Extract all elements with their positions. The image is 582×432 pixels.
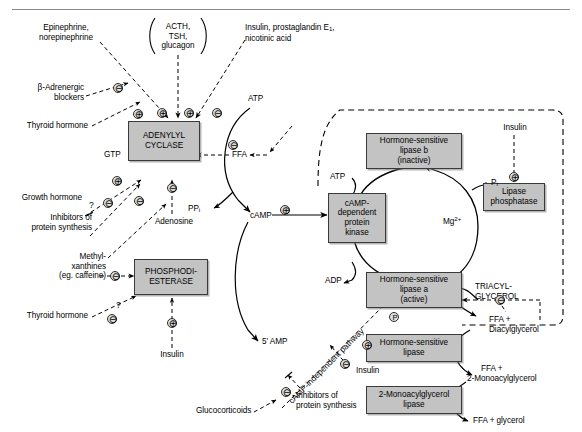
sign-plus-insulin-phosphatase xyxy=(509,172,519,182)
sign-minus-methylxanthines xyxy=(110,271,120,281)
sign-minus-inhibitors2 xyxy=(281,387,291,397)
question-mark-thyroid-bottom: ? xyxy=(116,300,121,310)
sign-minus-adenosine xyxy=(167,183,177,193)
hsl-a-line1: Hormone-sensitive xyxy=(380,275,448,285)
phosphodiesterase-line2: ESTERASE xyxy=(145,277,197,287)
pka-line4: kinase xyxy=(338,228,377,238)
arrow-ffa-source-b xyxy=(270,126,292,152)
label-inhibitors-protein-synthesis-2: Inhibitors of protein synthesis xyxy=(296,391,357,410)
cycle-right-arc xyxy=(428,170,478,288)
pka-line3: protein xyxy=(338,218,377,228)
spacer-path xyxy=(142,176,150,190)
label-ffa-diacylglycerol: FFA + Diacylglycerol xyxy=(489,315,539,334)
hsl-a-line3: (active) xyxy=(380,295,448,305)
sign-plus-gtp xyxy=(112,176,122,186)
adenylyl-cyclase-line2: CYCLASE xyxy=(143,141,185,151)
sign-plus-insulin-pde xyxy=(167,318,177,328)
sign-minus-ffa-lipase-a xyxy=(495,295,505,305)
ppi-main: PP xyxy=(188,204,199,213)
curve-adp-out xyxy=(352,262,356,280)
arrow-adp xyxy=(344,280,352,283)
hsl-line2: lipase xyxy=(380,348,448,358)
mgl-line1: 2-Monoacylglycerol xyxy=(379,390,450,400)
arrow-inhibitors-protein-synthesis xyxy=(90,184,140,236)
label-insulin-camp-independent: Insulin xyxy=(356,366,379,376)
curve-camp-to-amp xyxy=(235,222,248,330)
nicotinic-acid-line: nicotinic acid xyxy=(245,34,335,44)
ppi-subscript: i xyxy=(199,206,200,213)
mg-main: Mg xyxy=(443,217,454,226)
label-glucocorticoids: Glucocorticoids xyxy=(196,406,251,416)
mgl-line2: lipase xyxy=(379,400,450,410)
label-epinephrine: Epinephrine, norepinephrine xyxy=(22,23,110,42)
sign-plus-acth xyxy=(184,108,194,118)
label-adenosine: Adenosine xyxy=(147,217,201,227)
hsl-b-line1: Hormone-sensitive xyxy=(380,136,448,146)
label-ppi: PPi xyxy=(188,204,200,215)
arrow-methylxanthines-adenosine xyxy=(108,204,166,258)
arrow-to-5amp xyxy=(248,330,258,341)
label-thyroid-hormone-top: Thyroid hormone xyxy=(0,121,88,131)
label-ffa-glycerol: FFA + glycerol xyxy=(473,416,524,426)
hsl-a-line2: lipase a xyxy=(380,285,448,295)
enzyme-box-camp-dependent-protein-kinase[interactable]: cAMP- dependent protein kinase xyxy=(328,193,386,243)
sign-plus-epinephrine xyxy=(157,108,167,118)
label-ffa-2-monoacylglycerol: FFA + 2-Monoacylglycerol xyxy=(467,364,537,383)
label-beta-adrenergic-blockers: β-Adrenergic blockers xyxy=(0,83,84,102)
phosphodiesterase-line1: PHOSPHODI- xyxy=(145,267,197,277)
sign-plus-camp-independent xyxy=(362,340,372,350)
label-atp-cycle: ATP xyxy=(330,172,345,182)
curve-to-ppi xyxy=(214,192,233,208)
enzyme-box-phosphodiesterase[interactable]: PHOSPHODI- ESTERASE xyxy=(134,259,208,295)
hsl-line1: Hormone-sensitive xyxy=(380,338,448,348)
label-growth-hormone: Growth hormone xyxy=(0,193,82,203)
mg-superscript: 2+ xyxy=(454,215,461,222)
label-camp: cAMP xyxy=(250,211,272,221)
label-gtp: GTP xyxy=(104,150,121,160)
pka-line1: cAMP- xyxy=(338,199,377,209)
insulin-pge1-main: Insulin, prostaglandin E xyxy=(245,23,329,32)
enzyme-box-hormone-sensitive-lipase-b[interactable]: Hormone-sensitive lipase b (inactive) xyxy=(366,133,462,169)
enzyme-box-adenylyl-cyclase[interactable]: ADENYLYL CYCLASE xyxy=(128,121,200,161)
tick-inhibitors2 xyxy=(285,372,292,378)
sign-minus-growth-hormone xyxy=(103,198,113,208)
insulin-pge1-comma: , xyxy=(332,23,334,32)
label-adp-cycle: ADP xyxy=(325,276,342,286)
label-inhibitors-protein-synthesis: Inhibitors of protein synthesis xyxy=(0,213,92,232)
lipase-phosphatase-line1: Lipase xyxy=(491,187,538,197)
label-5-amp: 5' AMP xyxy=(262,337,287,347)
sign-plus-thyroid-top xyxy=(133,109,143,119)
enzyme-box-2-monoacylglycerol-lipase[interactable]: 2-Monoacylglycerol lipase xyxy=(366,386,462,414)
label-thyroid-hormone-bottom: Thyroid hormone xyxy=(0,311,88,321)
label-insulin-prostaglandin-nicotinic: Insulin, prostaglandin E1, nicotinic aci… xyxy=(245,23,335,43)
question-mark-growth-hormone: ? xyxy=(89,200,94,210)
enzyme-box-hormone-sensitive-lipase[interactable]: Hormone-sensitive lipase xyxy=(366,334,462,362)
pka-line2: dependent xyxy=(338,208,377,218)
lipase-phosphatase-line2: phosphatase xyxy=(491,197,538,207)
label-acth-tsh-glucagon: ACTH, TSH, glucagon xyxy=(156,22,200,51)
sign-phosphate-lipase-a xyxy=(389,312,399,322)
pi-subscript: i xyxy=(496,180,497,187)
label-methylxanthines: Methyl- xanthines (eg. caffeine) xyxy=(0,252,106,281)
label-insulin-lipase-phosphatase: Insulin xyxy=(494,123,536,133)
sign-minus-ffa-ac xyxy=(228,140,238,150)
label-insulin-phosphodiesterase: Insulin xyxy=(151,350,193,360)
arrow-insulin-pge1 xyxy=(196,40,245,118)
sign-plus-camp-pka xyxy=(280,205,290,215)
enzyme-box-hormone-sensitive-lipase-a[interactable]: Hormone-sensitive lipase a (active) xyxy=(366,272,462,308)
label-atp-top: ATP xyxy=(248,94,263,104)
sign-minus-beta-blockers xyxy=(113,83,123,93)
hsl-b-line3: (inactive) xyxy=(380,156,448,166)
adenylyl-cyclase-line1: ADENYLYL xyxy=(143,131,185,141)
sign-minus-inhibitors xyxy=(134,196,144,206)
pathway-diagram-canvas: ADENYLYL CYCLASE PHOSPHODI- ESTERASE cAM… xyxy=(0,0,582,432)
sign-minus-thyroid-bottom xyxy=(107,314,117,324)
arrow-glucocorticoids xyxy=(254,400,276,412)
sign-minus-insulin-pge1 xyxy=(212,108,222,118)
arrow-to-camp xyxy=(238,200,250,212)
label-magnesium: Mg2+ xyxy=(443,214,461,227)
label-pi: Pi xyxy=(491,178,498,189)
sign-minus-insulin-independent xyxy=(340,359,350,369)
hsl-b-line2: lipase b xyxy=(380,146,448,156)
